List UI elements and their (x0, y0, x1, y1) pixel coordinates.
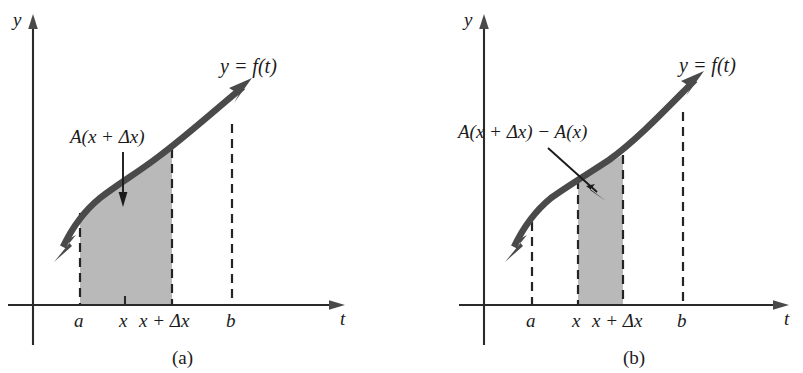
tick-label-b-b: b (677, 310, 687, 331)
tick-label-b-a: a (526, 310, 536, 331)
curve-label-a: y = f(t) (218, 55, 277, 78)
caption-a: (a) (172, 347, 193, 369)
t-axis-label-b: t (784, 308, 790, 329)
panel-a-svg: y t A(x + Δx) y = f(t) (0, 0, 401, 373)
annotation-label-a: A(x + Δx) (68, 126, 145, 148)
shaded-area-a (80, 149, 172, 305)
panel-a: y t A(x + Δx) y = f(t) (0, 0, 401, 373)
t-axis-a (8, 300, 345, 310)
t-axis-label-a: t (340, 308, 346, 329)
figure-container: y t A(x + Δx) y = f(t) (0, 0, 803, 373)
tick-label-a-x-plus-dx: x + Δx (138, 310, 190, 331)
y-axis-label-a: y (11, 9, 22, 30)
tick-label-a-b: b (226, 310, 236, 331)
y-axis-b (479, 14, 489, 345)
tick-label-b-x-plus-dx: x + Δx (591, 310, 643, 331)
y-axis-a (28, 14, 38, 345)
annotation-label-b: A(x + Δx) − A(x) (456, 121, 587, 143)
panel-b-svg: y t A(x + Δx) − A(x) y = f(t) (401, 0, 803, 373)
caption-b: (b) (623, 347, 645, 369)
t-axis-b (459, 300, 789, 310)
tick-label-a-a: a (74, 310, 84, 331)
tick-label-b-x: x (571, 310, 581, 331)
curve-label-b: y = f(t) (677, 54, 736, 77)
panel-b: y t A(x + Δx) − A(x) y = f(t) (401, 0, 803, 373)
y-axis-label-b: y (462, 9, 473, 30)
tick-label-a-x: x (118, 310, 128, 331)
